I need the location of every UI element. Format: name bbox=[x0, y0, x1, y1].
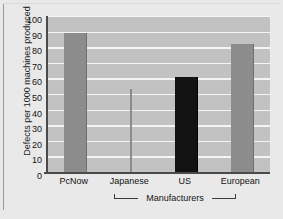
y-axis-tick-label: 50 bbox=[18, 94, 42, 103]
x-axis-line bbox=[44, 172, 270, 174]
y-axis-tick-label: 10 bbox=[18, 156, 42, 165]
y-axis-tick-label: 90 bbox=[18, 32, 42, 41]
x-axis-bracket: Manufacturers bbox=[114, 193, 236, 204]
bar-pcnow bbox=[64, 33, 87, 172]
y-axis-tick-label: 60 bbox=[18, 78, 42, 87]
y-axis-tick-labels: 1009080706050403020100 bbox=[18, 12, 42, 172]
bar-japanese bbox=[130, 89, 132, 172]
y-axis-tick-label: 20 bbox=[18, 141, 42, 150]
x-axis-title: Manufacturers bbox=[114, 193, 236, 203]
y-axis-tick-label: 30 bbox=[18, 125, 42, 134]
x-axis-tick-label: US bbox=[178, 176, 191, 186]
x-axis-tick-label: Japanese bbox=[110, 176, 149, 186]
y-axis-tick-label: 0 bbox=[18, 172, 42, 181]
bar-us bbox=[175, 77, 198, 172]
y-axis-tick-label: 80 bbox=[18, 47, 42, 56]
y-axis-tick-label: 100 bbox=[18, 16, 42, 25]
bar-chart-figure: Defects per 1000 machines produced 10090… bbox=[0, 0, 283, 219]
y-axis-tick-label: 70 bbox=[18, 63, 42, 72]
y-axis-tick-label: 40 bbox=[18, 110, 42, 119]
bar-european bbox=[231, 44, 254, 172]
x-axis-tick-labels: PcNowJapaneseUSEuropean bbox=[46, 176, 268, 190]
x-axis-tick-label: PcNow bbox=[59, 176, 88, 186]
plot-area bbox=[46, 16, 270, 172]
figure-frame-top bbox=[3, 3, 280, 4]
figure-frame-left bbox=[3, 3, 4, 210]
x-axis-tick-label: European bbox=[221, 176, 260, 186]
bar-series bbox=[48, 16, 270, 172]
